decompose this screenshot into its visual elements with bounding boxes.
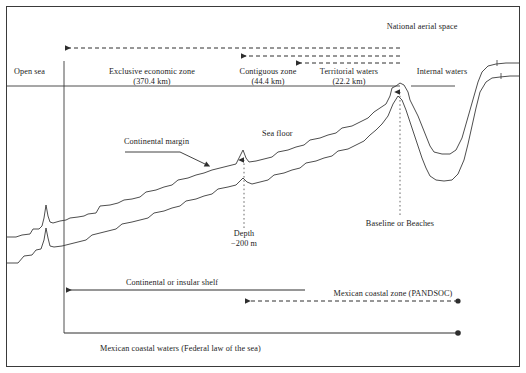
label-contiguous-zone-distance: (44.4 km) (251, 77, 284, 87)
label-open-sea: Open sea (14, 67, 45, 77)
label-eez-name: Exclusive economic zone (109, 67, 195, 77)
label-continental-shelf: Continental or insular shelf (126, 278, 218, 288)
label-internal-waters: Internal waters (417, 67, 467, 77)
crust-profile (7, 76, 519, 263)
label-territorial-waters-name: Territorial waters (320, 67, 378, 77)
label-mexican-coastal-zone: Mexican coastal zone (PANDSOC) (334, 289, 453, 299)
label-national-aerial-space: National aerial space (387, 22, 458, 32)
label-contiguous-zone-name: Contiguous zone (240, 67, 297, 77)
diagram-canvas: National aerial space Open sea Exclusive… (0, 0, 526, 373)
label-continental-margin: Continental margin (124, 137, 189, 147)
continental-margin-pointer (125, 152, 205, 164)
label-eez-distance: (370.4 km) (133, 77, 170, 87)
coastal-waters-end-dot (455, 330, 461, 336)
label-baseline-or-beaches: Baseline or Beaches (366, 219, 434, 229)
label-sea-floor: Sea floor (262, 129, 293, 139)
coastal-zone-end-dot (455, 298, 460, 303)
figure-border (7, 7, 520, 367)
maritime-zones-svg (0, 0, 526, 373)
label-depth-value: −200 m (231, 239, 257, 249)
label-depth: Depth (234, 229, 255, 239)
label-territorial-waters-distance: (22.2 km) (332, 77, 365, 87)
sea-floor-profile (7, 63, 519, 237)
label-mexican-coastal-waters: Mexican coastal waters (Federal law of t… (100, 344, 261, 354)
